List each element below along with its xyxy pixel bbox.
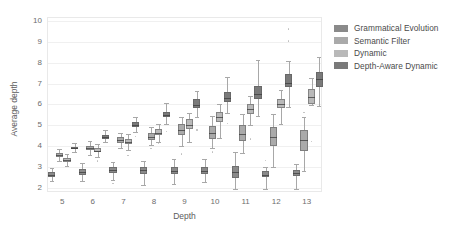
legend-label: Grammatical Evolution — [354, 23, 439, 33]
cap-lower — [263, 189, 268, 190]
cap-upper — [126, 134, 131, 135]
box-iqr — [285, 74, 292, 87]
whisker-lower — [266, 177, 267, 189]
whisker-lower — [220, 122, 221, 137]
median-line — [316, 79, 323, 80]
legend-item[interactable]: Semantic Filter — [334, 35, 456, 48]
whisker-upper — [220, 104, 221, 112]
legend-item[interactable]: Dynamic — [334, 47, 456, 60]
cap-upper — [80, 163, 85, 164]
whisker-upper — [304, 117, 305, 130]
cap-lower — [294, 189, 299, 190]
box-iqr — [224, 92, 231, 102]
x-tick-label: 8 — [152, 197, 156, 206]
y-tick-label: 7 — [37, 78, 42, 87]
outlier-point — [97, 160, 98, 161]
whisker-upper — [182, 117, 183, 125]
legend-label: Dynamic — [354, 48, 387, 58]
whisker-lower — [289, 87, 290, 106]
median-line — [277, 104, 284, 105]
cap-lower — [248, 125, 253, 126]
cap-lower — [149, 145, 154, 146]
legend-swatch — [334, 37, 348, 44]
cap-upper — [187, 113, 192, 114]
cap-upper — [111, 162, 116, 163]
x-tick-label: 10 — [211, 197, 220, 206]
legend-item[interactable]: Grammatical Evolution — [334, 22, 456, 35]
x-tick-label: 11 — [241, 197, 249, 206]
whisker-lower — [319, 87, 320, 106]
y-tick-label: 5 — [37, 120, 42, 129]
legend-item[interactable]: Depth-Aware Dynamic — [334, 60, 456, 73]
cap-upper — [286, 61, 291, 62]
whisker-upper — [166, 103, 167, 111]
cap-upper — [256, 60, 261, 61]
cap-upper — [317, 57, 322, 58]
median-line — [140, 170, 147, 171]
whisker-lower — [258, 99, 259, 116]
cap-upper — [172, 159, 177, 160]
legend-swatch — [334, 62, 348, 69]
whisker-lower — [296, 176, 297, 189]
y-tick-label: 3 — [37, 161, 42, 170]
outlier-point — [265, 160, 266, 161]
whisker-upper — [174, 159, 175, 167]
cap-upper — [263, 167, 268, 168]
cap-upper — [72, 143, 77, 144]
outlier-point — [288, 28, 289, 29]
cap-lower — [240, 153, 245, 154]
median-line — [293, 173, 300, 174]
median-line — [48, 175, 55, 176]
cap-lower — [164, 124, 169, 125]
cap-upper — [302, 117, 307, 118]
cap-upper — [103, 130, 108, 131]
cap-upper — [279, 90, 284, 91]
x-tick-label: 7 — [121, 197, 125, 206]
median-line — [171, 171, 178, 172]
x-axis-title: Depth — [47, 211, 322, 221]
y-tick-label: 4 — [37, 141, 42, 150]
outlier-point — [150, 148, 151, 149]
median-line — [247, 109, 254, 110]
median-line — [300, 140, 307, 141]
x-axis: Depth 5678910111213 — [47, 192, 322, 230]
legend-label: Semantic Filter — [354, 36, 410, 46]
cap-lower — [271, 167, 276, 168]
cap-lower — [187, 142, 192, 143]
cap-lower — [80, 181, 85, 182]
legend-swatch — [334, 25, 348, 32]
whisker-upper — [312, 78, 313, 88]
whisker-lower — [304, 151, 305, 171]
cap-upper — [88, 141, 93, 142]
box-iqr — [254, 86, 261, 99]
y-tick-label: 6 — [37, 99, 42, 108]
cap-lower — [50, 181, 55, 182]
whisker-lower — [182, 135, 183, 146]
outlier-point — [135, 136, 136, 137]
median-line — [262, 175, 269, 176]
median-line — [102, 137, 109, 138]
median-line — [56, 155, 63, 156]
cap-lower — [133, 132, 138, 133]
median-line — [308, 97, 315, 98]
cap-lower — [217, 138, 222, 139]
median-line — [155, 133, 162, 134]
outlier-point — [181, 153, 182, 154]
legend-swatch — [334, 50, 348, 57]
whisker-upper — [227, 77, 228, 92]
whisker-lower — [159, 135, 160, 142]
median-line — [224, 98, 231, 99]
cap-upper — [133, 117, 138, 118]
cap-lower — [111, 180, 116, 181]
cap-lower — [256, 116, 261, 117]
outlier-point — [158, 143, 159, 144]
cap-upper — [233, 152, 238, 153]
cap-lower — [88, 155, 93, 156]
outlier-point — [303, 112, 304, 113]
whisker-lower — [227, 102, 228, 113]
whisker-upper — [212, 116, 213, 126]
cap-upper — [210, 116, 215, 117]
cap-lower — [317, 106, 322, 107]
cap-upper — [156, 124, 161, 125]
cap-lower — [95, 157, 100, 158]
